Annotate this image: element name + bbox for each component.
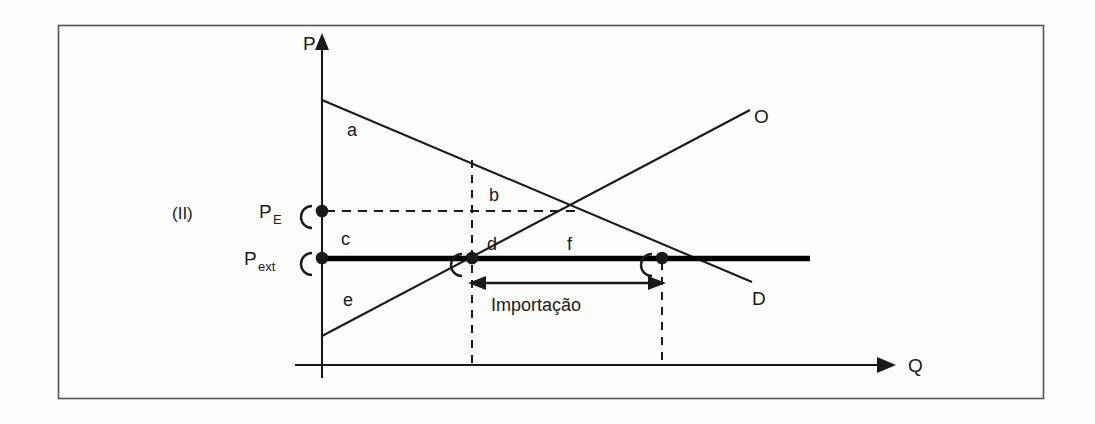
q-axis-label: Q [908, 355, 923, 376]
region-label-c: c [341, 229, 350, 249]
demand-curve-line [322, 100, 752, 282]
pe-bracket-arc [301, 206, 312, 228]
region-label-f: f [567, 234, 573, 254]
import-arrow-left-icon [468, 276, 486, 290]
q-axis-arrow-icon [877, 357, 896, 373]
import-arrow-right-icon [648, 276, 666, 290]
equilibrium-price-label: P [259, 201, 272, 222]
external-price-label: P [244, 248, 257, 269]
quantity-supplied-dot [466, 252, 479, 265]
economics-diagram: (II) P Q P E P ext O D a b c d e f Impor… [0, 0, 1095, 424]
region-label-d: d [487, 234, 497, 254]
import-label: Importação [491, 295, 581, 315]
demand-curve-label: D [752, 288, 766, 309]
equilibrium-price-dot [316, 205, 329, 218]
figure-stage: (II) P Q P E P ext O D a b c d e f Impor… [0, 0, 1095, 424]
p-axis-label: P [303, 33, 316, 54]
equilibrium-price-label-subscript: E [273, 212, 282, 227]
pext-bracket-arc [301, 253, 312, 275]
region-label-e: e [343, 290, 353, 310]
external-price-dot [316, 252, 329, 265]
external-price-label-subscript: ext [258, 259, 276, 274]
panel-label: (II) [172, 204, 193, 223]
quantity-demanded-dot [656, 252, 669, 265]
region-label-b: b [489, 185, 499, 205]
p-axis-arrow-icon [315, 33, 329, 50]
region-label-a: a [347, 120, 358, 140]
supply-curve-label: O [754, 106, 769, 127]
